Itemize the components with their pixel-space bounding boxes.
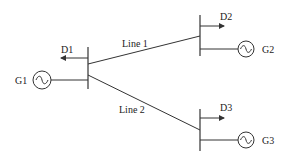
gen-g3-label: G3 xyxy=(262,135,274,146)
generator-g2-icon xyxy=(238,41,254,57)
load-d3-label: D3 xyxy=(220,102,232,113)
bus-1: D1 G1 xyxy=(15,44,88,89)
bus-2: D2 G2 xyxy=(200,11,274,57)
line-2 xyxy=(88,75,200,130)
bus-3: D3 G3 xyxy=(200,102,274,151)
generator-g3-icon xyxy=(238,132,254,148)
gen-g2-label: G2 xyxy=(262,44,274,55)
load-d2-label: D2 xyxy=(220,11,232,22)
line-1-label: Line 1 xyxy=(122,38,148,49)
power-system-diagram: D1 G1 Line 1 Line 2 D2 G2 D3 G3 xyxy=(0,0,290,163)
gen-g1-label: G1 xyxy=(15,75,27,86)
load-d1-label: D1 xyxy=(61,44,73,55)
line-2-label: Line 2 xyxy=(119,104,145,115)
generator-g1-icon xyxy=(33,71,51,89)
